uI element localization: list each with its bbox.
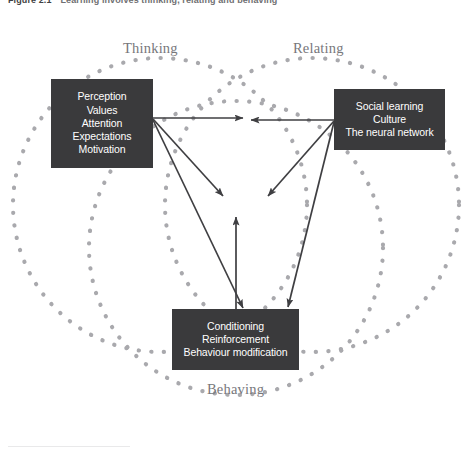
concept-line: Expectations xyxy=(73,130,132,143)
concept-line: Conditioning xyxy=(207,320,264,333)
concept-box-behaving: Conditioning Reinforcement Behaviour mod… xyxy=(172,309,299,370)
concept-box-relating: Social learning Culture The neural netwo… xyxy=(334,89,445,150)
circle-label-thinking: Thinking xyxy=(123,40,178,57)
concept-line: Motivation xyxy=(79,143,126,156)
concept-box-thinking: Perception Values Attention Expectations… xyxy=(51,79,153,168)
venn-diagram: Thinking Relating Behaving Perception Va… xyxy=(0,0,472,452)
bottom-divider xyxy=(8,446,130,447)
concept-line: Values xyxy=(87,104,118,117)
concept-line: Attention xyxy=(82,117,123,130)
concept-line: Behaviour modification xyxy=(183,346,287,359)
circle-label-relating: Relating xyxy=(293,40,344,57)
concept-line: Culture xyxy=(373,113,406,126)
concept-line: The neural network xyxy=(345,126,433,139)
concept-line: Social learning xyxy=(356,100,423,113)
circle-label-behaving: Behaving xyxy=(207,381,264,398)
concept-line: Perception xyxy=(77,90,126,103)
concept-line: Reinforcement xyxy=(202,333,269,346)
arrow-thinking-to-overlap xyxy=(153,119,223,196)
arrow-relating-to-behaving xyxy=(288,122,334,307)
